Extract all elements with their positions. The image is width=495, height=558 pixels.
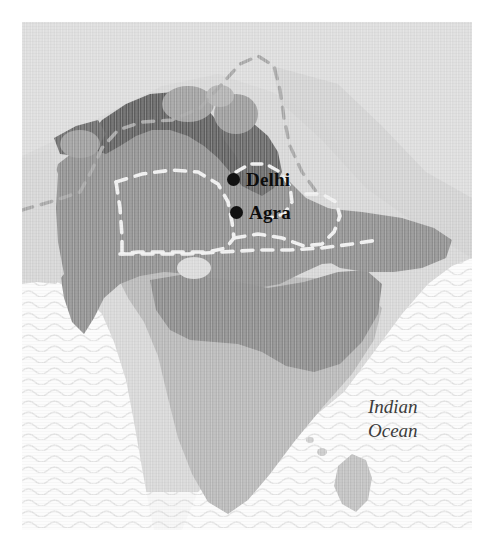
map-base-svg: [22, 22, 472, 530]
city-dot-agra: [230, 206, 243, 219]
city-marker-delhi: Delhi: [227, 170, 290, 189]
city-dot-delhi: [227, 173, 240, 186]
ocean-label: Indian Ocean: [368, 395, 418, 443]
city-marker-agra: Agra: [230, 203, 291, 222]
city-label-agra: Agra: [249, 203, 291, 222]
map-figure: Delhi Agra Indian Ocean: [0, 0, 495, 558]
land-grain-overlay: [22, 22, 472, 530]
map-plate: Delhi Agra Indian Ocean: [22, 22, 472, 530]
city-label-delhi: Delhi: [246, 170, 290, 189]
